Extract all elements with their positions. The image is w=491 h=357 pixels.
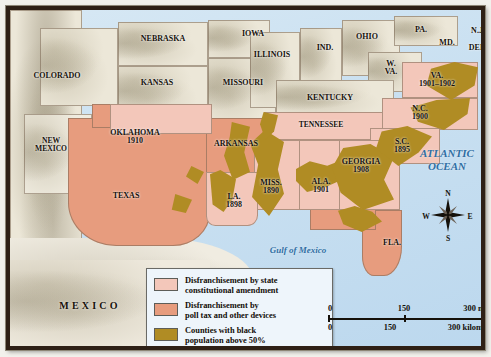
compass-east-label: E <box>467 212 472 221</box>
legend-label-black-majority-counties: Counties with black population above 50% <box>185 326 266 346</box>
legend-item-poll-tax: Disfranchisement by poll tax and other d… <box>154 301 324 321</box>
scale-miles-tick-300: 300 miles <box>463 304 481 313</box>
water-label-atlantic-ocean: ATLANTIC OCEAN <box>420 147 474 172</box>
scale-miles-tick-0: 0 <box>328 304 332 313</box>
water-label-gulf-of-mexico: Gulf of Mexico <box>270 245 327 255</box>
state-indiana <box>300 28 342 88</box>
scale-miles-tick-150: 150 <box>398 304 411 313</box>
scale-km-tick-150: 150 <box>384 323 397 332</box>
compass-north-label: N <box>445 189 450 198</box>
scale-bar-rule <box>328 315 481 322</box>
state-kentucky <box>276 80 394 116</box>
state-texas <box>68 118 210 246</box>
historical-map-figure: COLORADONEBRASKAIOWAKANSASMISSOURIILLINO… <box>0 0 491 357</box>
legend-label-amendment: Disfranchisement by state constitutional… <box>185 276 278 296</box>
scale-km-tick-300: 300 kilometers <box>448 323 481 332</box>
legend-swatch-amendment <box>154 278 178 291</box>
scale-km-tick-0: 0 <box>328 323 332 332</box>
map-scale: 0 150 300 miles 0 150 300 kilometers <box>328 304 481 333</box>
state-oklahoma <box>110 104 212 134</box>
map-frame: COLORADONEBRASKAIOWAKANSASMISSOURIILLINO… <box>6 6 485 350</box>
compass-south-label: S <box>446 234 450 243</box>
compass-west-label: W <box>422 212 430 221</box>
scale-miles-labels: 0 150 300 miles <box>328 304 481 314</box>
map-canvas: COLORADONEBRASKAIOWAKANSASMISSOURIILLINO… <box>10 10 481 346</box>
scale-kilometers-labels: 0 150 300 kilometers <box>328 323 481 333</box>
scale-tick-left <box>328 315 330 322</box>
scale-tick-mid <box>404 315 406 322</box>
legend-swatch-poll-tax <box>154 303 178 316</box>
legend-label-poll-tax: Disfranchisement by poll tax and other d… <box>185 301 276 321</box>
state-pennsylvania <box>394 16 458 46</box>
compass-rose: N E S W <box>422 186 474 242</box>
legend-item-black-majority-counties: Counties with black population above 50% <box>154 326 324 346</box>
state-nebraska <box>118 22 208 66</box>
legend-item-amendment: Disfranchisement by state constitutional… <box>154 276 324 296</box>
state-colorado <box>40 28 118 106</box>
label-mexico: MEXICO <box>59 300 120 311</box>
legend-swatch-black-majority-counties <box>154 328 178 341</box>
map-legend: Disfranchisement by state constitutional… <box>146 268 333 346</box>
